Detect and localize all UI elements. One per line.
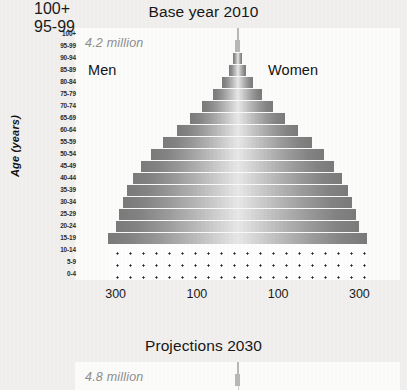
bar-women-0-4 [238,268,367,280]
age-tick-5-9: 5-9 [34,259,76,265]
age-tick-2030-95-99: 95-99 [34,18,76,36]
age-tick-80-84: 80-84 [34,79,76,85]
pyramid-row [75,208,400,220]
bar-women-75-79 [238,88,262,100]
bar-women-2030 [238,374,240,386]
bar-men-65-69 [190,112,238,124]
age-tick-60-64: 60-64 [34,127,76,133]
pyramid-row [75,256,400,268]
bar-women-40-44 [238,172,343,184]
bar-men-40-44 [133,172,238,184]
x-tick-label: 100 [186,287,207,301]
pyramid-row [75,160,400,172]
x-tick-label: 300 [105,287,126,301]
pyramid-row [75,76,400,88]
bar-women-45-49 [238,160,335,172]
age-tick-10-14: 10-14 [34,247,76,253]
pyramid-row [75,184,400,196]
bar-women-85-89 [238,64,247,76]
age-tick-55-59: 55-59 [34,139,76,145]
pyramid-row [75,124,400,136]
bar-women-80-84 [238,76,253,88]
x-tick-label: 100 [268,287,289,301]
bar-men-15-19 [108,232,237,244]
bar-men-25-29 [119,208,238,220]
bar-women-70-74 [238,100,274,112]
pyramid-row [75,172,400,184]
bar-women-50-54 [238,148,324,160]
bar-women-15-19 [238,232,367,244]
pyramid-row [75,64,400,76]
population-total-annotation-2010: 4.2 million [85,36,143,50]
bar-men-10-14 [108,244,237,256]
bar-men-5-9 [108,256,237,268]
pyramid-row [75,52,400,64]
population-total-annotation-2030: 4.8 million [85,370,143,384]
men-side-label: Men [88,62,117,78]
bar-women-2030 [238,362,239,374]
x-tick-label: 300 [349,287,370,301]
age-tick-25-29: 25-29 [34,211,76,217]
chart-title-2030: Projections 2030 [0,337,407,355]
age-tick-20-24: 20-24 [34,223,76,229]
bar-men-35-39 [127,184,238,196]
bar-women-35-39 [238,184,349,196]
x-axis-tick-labels: 300100100300 [75,281,400,303]
bar-women-5-9 [238,256,367,268]
bar-women-55-59 [238,136,312,148]
age-tick-0-4: 0-4 [34,271,76,277]
pyramid-row [75,88,400,100]
pyramid-row [75,232,400,244]
bar-women-20-24 [238,220,360,232]
pyramid-row [75,244,400,256]
y-axis-tick-labels-2030: 100+95-99 [34,0,76,36]
age-tick-85-89: 85-89 [34,67,76,73]
bar-men-20-24 [116,220,238,232]
y-axis-title: Age (years) [9,96,21,196]
bar-men-55-59 [163,136,237,148]
age-tick-2030-100plus: 100+ [34,0,76,18]
pyramid-row [75,196,400,208]
bar-men-50-54 [151,148,237,160]
bar-men-30-34 [123,196,238,208]
pyramid-row [75,220,400,232]
population-pyramid-2010 [75,28,400,280]
women-side-label: Women [268,62,318,78]
age-tick-35-39: 35-39 [34,187,76,193]
bar-women-65-69 [238,112,286,124]
age-tick-15-19: 15-19 [34,235,76,241]
pyramid-row [75,112,400,124]
bar-women-60-64 [238,124,299,136]
age-tick-70-74: 70-74 [34,103,76,109]
age-tick-50-54: 50-54 [34,151,76,157]
bar-women-100plus [238,28,239,40]
bar-men-70-74 [202,100,238,112]
bar-men-0-4 [108,268,237,280]
bar-men-85-89 [229,64,238,76]
bar-women-95-99 [238,40,240,52]
pyramid-row [75,100,400,112]
bar-men-60-64 [177,124,238,136]
age-tick-75-79: 75-79 [34,91,76,97]
age-tick-95-99: 95-99 [34,43,76,49]
age-tick-45-49: 45-49 [34,163,76,169]
bar-men-75-79 [213,88,237,100]
age-tick-90-94: 90-94 [34,55,76,61]
pyramid-row [75,136,400,148]
bar-men-80-84 [222,76,237,88]
pyramid-row [75,268,400,280]
age-tick-30-34: 30-34 [34,199,76,205]
bar-women-90-94 [238,52,243,64]
age-tick-40-44: 40-44 [34,175,76,181]
bar-women-10-14 [238,244,367,256]
bar-women-30-34 [238,196,353,208]
age-tick-65-69: 65-69 [34,115,76,121]
pyramid-row [75,148,400,160]
bar-men-45-49 [141,160,238,172]
bar-women-25-29 [238,208,357,220]
